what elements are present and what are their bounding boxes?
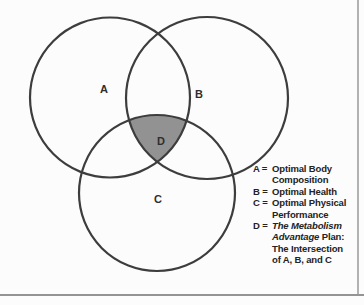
label-circle-b: B — [195, 88, 203, 100]
legend-item-key: B = — [253, 186, 272, 197]
legend-item-key: A = — [253, 163, 272, 174]
legend-item-c: C =Optimal Physical Performance — [253, 197, 354, 220]
legend-item-label: Optimal Physical Performance — [272, 197, 354, 220]
legend-item-key: D = — [253, 220, 272, 231]
legend-item-label: Optimal Body Composition — [272, 163, 354, 186]
legend-item-a: A =Optimal Body Composition — [253, 163, 354, 186]
legend-item-label: Optimal Health — [272, 186, 354, 197]
label-region-d: D — [157, 135, 165, 147]
label-circle-a: A — [100, 83, 108, 95]
right-border-rule — [357, 0, 359, 296]
circle-b — [126, 17, 288, 179]
scanned-figure-page: A B C D A =Optimal Body CompositionB =Op… — [0, 0, 364, 305]
bottom-border-rule — [0, 294, 364, 296]
legend: A =Optimal Body CompositionB =Optimal He… — [253, 163, 354, 266]
legend-item-d: D =The Metabolism Advantage Plan: The In… — [253, 220, 354, 266]
legend-item-b: B =Optimal Health — [253, 186, 354, 197]
circle-a — [30, 18, 190, 178]
label-circle-c: C — [154, 193, 162, 205]
legend-item-key: C = — [253, 197, 272, 208]
legend-item-label: The Metabolism Advantage Plan: The Inter… — [272, 220, 354, 266]
